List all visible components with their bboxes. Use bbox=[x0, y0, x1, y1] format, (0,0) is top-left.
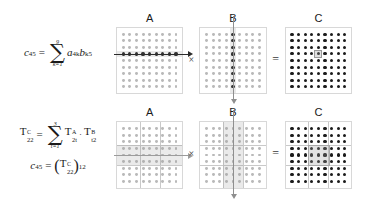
matrix-cell bbox=[250, 44, 257, 51]
matrix-dot bbox=[142, 173, 145, 176]
matrix-dot bbox=[161, 59, 164, 62]
matrix-cell bbox=[322, 84, 329, 91]
matrix-dot bbox=[212, 147, 215, 150]
matrix-dot bbox=[337, 72, 340, 75]
matrix-dot bbox=[310, 140, 313, 143]
bottom-formula2-inner-sub: 22 bbox=[67, 169, 74, 176]
matrix-cell bbox=[160, 178, 167, 185]
matrix-cell bbox=[146, 84, 153, 91]
matrix-cell bbox=[210, 139, 217, 146]
matrix-dot bbox=[175, 147, 178, 150]
matrix-dot bbox=[290, 134, 293, 137]
matrix-dot bbox=[122, 127, 125, 130]
matrix-cell bbox=[140, 132, 147, 139]
matrix-dot bbox=[142, 79, 145, 82]
matrix-cell bbox=[256, 70, 263, 77]
matrix-dot bbox=[251, 59, 254, 62]
matrix-dot bbox=[245, 134, 248, 137]
matrix-cell bbox=[256, 125, 263, 132]
matrix-cell bbox=[243, 158, 250, 165]
matrix-cell bbox=[295, 37, 302, 44]
matrix-cell bbox=[295, 77, 302, 84]
matrix-cell bbox=[341, 152, 348, 159]
matrix-cell bbox=[341, 132, 348, 139]
matrix-cell bbox=[133, 70, 140, 77]
matrix-cell bbox=[210, 171, 217, 178]
matrix-dot bbox=[323, 134, 326, 137]
matrix-dot bbox=[317, 173, 320, 176]
matrix-cell bbox=[322, 31, 329, 38]
matrix-dot bbox=[155, 52, 158, 55]
matrix-dot bbox=[258, 72, 261, 75]
matrix-cell bbox=[341, 165, 348, 172]
matrix-dot bbox=[212, 72, 215, 75]
matrix-cell bbox=[295, 158, 302, 165]
matrix-dot bbox=[155, 173, 158, 176]
matrix-dot bbox=[337, 39, 340, 42]
matrix-cell bbox=[203, 77, 210, 84]
matrix-dot bbox=[168, 72, 171, 75]
matrix-dot bbox=[245, 160, 248, 163]
matrix-dot bbox=[122, 173, 125, 176]
matrix-dot bbox=[175, 154, 178, 157]
matrix-cell bbox=[146, 70, 153, 77]
matrix-cell bbox=[302, 152, 309, 159]
bottom-formula-term1-sup: A bbox=[72, 129, 76, 135]
matrix-dot bbox=[175, 85, 178, 88]
matrix-cell bbox=[140, 64, 147, 71]
matrix-dot bbox=[245, 140, 248, 143]
matrix-cell bbox=[289, 158, 296, 165]
matrix-cell bbox=[127, 51, 134, 58]
matrix-dot bbox=[258, 85, 261, 88]
matrix-cell bbox=[120, 51, 127, 58]
matrix-dot bbox=[343, 33, 346, 36]
matrix-cell bbox=[250, 51, 257, 58]
matrix-dot bbox=[205, 79, 208, 82]
matrix-cell bbox=[133, 77, 140, 84]
matrix-B-bottom-frame bbox=[199, 121, 266, 188]
matrix-dot bbox=[297, 66, 300, 69]
matrix-cell bbox=[166, 152, 173, 159]
matrix-cell bbox=[173, 158, 180, 165]
matrix-cell bbox=[223, 64, 230, 71]
matrix-dot bbox=[251, 180, 254, 183]
matrix-dot bbox=[168, 52, 171, 55]
matrix-cell bbox=[335, 44, 342, 51]
matrix-cell bbox=[230, 139, 237, 146]
matrix-B-top-label: B bbox=[229, 12, 236, 25]
matrix-cell bbox=[217, 165, 224, 172]
matrix-dot bbox=[231, 59, 234, 62]
matrix-cell bbox=[203, 158, 210, 165]
matrix-dot bbox=[304, 173, 307, 176]
matrix-dot bbox=[212, 66, 215, 69]
matrix-dot bbox=[148, 167, 151, 170]
matrix-dot bbox=[323, 46, 326, 49]
matrix-cell bbox=[256, 44, 263, 51]
matrix-cell bbox=[166, 132, 173, 139]
matrix-cell bbox=[210, 57, 217, 64]
matrix-dot bbox=[238, 85, 241, 88]
matrix-cell bbox=[335, 125, 342, 132]
matrix-dot bbox=[290, 59, 293, 62]
matrix-dot bbox=[205, 66, 208, 69]
matrix-dot bbox=[168, 180, 171, 183]
matrix-dot bbox=[142, 66, 145, 69]
matrix-dot bbox=[148, 52, 151, 55]
matrix-cell bbox=[250, 125, 257, 132]
matrix-cell bbox=[341, 178, 348, 185]
matrix-dot bbox=[218, 79, 221, 82]
matrix-dot bbox=[323, 140, 326, 143]
matrix-dot bbox=[297, 52, 300, 55]
matrix-cell bbox=[335, 178, 342, 185]
matrix-dot bbox=[297, 33, 300, 36]
matrix-dot bbox=[343, 85, 346, 88]
matrix-dot bbox=[297, 127, 300, 130]
matrix-dot bbox=[128, 154, 131, 157]
matrix-cell bbox=[243, 37, 250, 44]
matrix-dot bbox=[135, 134, 138, 137]
matrix-cell bbox=[203, 51, 210, 58]
matrix-dot bbox=[205, 154, 208, 157]
matrix-cell bbox=[153, 152, 160, 159]
matrix-dot bbox=[343, 72, 346, 75]
matrix-cell bbox=[203, 31, 210, 38]
